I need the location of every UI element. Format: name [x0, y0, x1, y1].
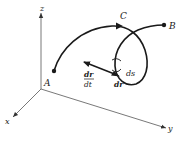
curve-direction-arrow-icon	[116, 23, 123, 30]
space-curve-diagram: z x y A B C ds dr dt dr	[0, 0, 183, 141]
point-a	[52, 69, 56, 73]
x-axis	[13, 89, 41, 117]
point-b	[162, 23, 166, 27]
coordinate-axes: z x y	[5, 4, 173, 133]
point-b-label: B	[168, 21, 176, 31]
ds-label: ds	[126, 69, 135, 78]
space-curve: A B C	[43, 11, 176, 88]
curve-segment-a-to-c	[54, 25, 164, 85]
z-axis-label: z	[39, 4, 45, 13]
vectors: dr dt dr	[84, 62, 124, 89]
x-axis-label: x	[5, 117, 10, 126]
tangent-denominator: dt	[84, 80, 93, 89]
point-c-label: C	[120, 11, 127, 21]
tangent-numerator: dr	[84, 70, 94, 79]
y-axis	[41, 89, 166, 128]
y-axis-label: y	[167, 124, 173, 133]
point-a-label: A	[43, 78, 51, 88]
displacement-label: dr	[114, 80, 124, 89]
